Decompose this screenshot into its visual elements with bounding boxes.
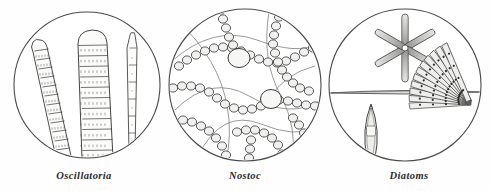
nostoc-drawing — [165, 0, 325, 191]
diatoms-drawing — [327, 0, 491, 191]
panel-caption-nostoc: Nostoc — [165, 170, 325, 181]
filament-center — [78, 30, 113, 159]
oscillatoria-drawing — [0, 0, 168, 191]
panel-caption-oscillatoria: Oscillatoria — [0, 170, 168, 181]
heterocyst — [228, 49, 250, 68]
panel-diatoms: Diatoms — [327, 0, 491, 191]
filament-right — [127, 32, 137, 152]
microscope-plate-figure: Oscillatoria — [0, 0, 491, 191]
heterocyst — [261, 90, 282, 109]
panel-oscillatoria: Oscillatoria — [0, 0, 168, 191]
panel-nostoc: Nostoc — [165, 0, 325, 191]
panel-caption-diatoms: Diatoms — [327, 170, 491, 181]
